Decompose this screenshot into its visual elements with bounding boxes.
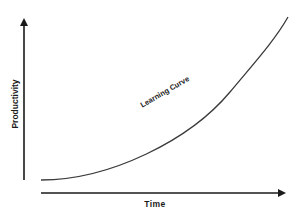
x-axis-label: Time: [144, 199, 166, 209]
learning-curve-line: [41, 17, 288, 180]
curve-annotation-label: Learning Curve: [139, 74, 191, 109]
y-axis-label: Productivity: [10, 79, 20, 128]
learning-curve-chart: Productivity Time Learning Curve: [0, 0, 300, 214]
